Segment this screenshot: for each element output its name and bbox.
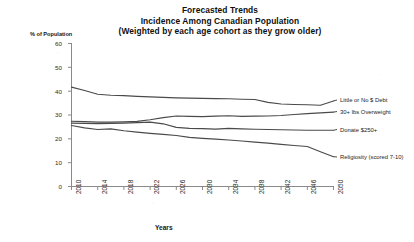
legend-leader-line	[334, 130, 338, 131]
y-tick-label: 20	[40, 135, 62, 142]
x-tick-label: 2034	[232, 179, 239, 193]
forecasted-trends-chart: Forecasted Trends Incidence Among Canadi…	[0, 0, 414, 242]
legend-leader-lines	[334, 100, 338, 157]
x-tick-label: 2042	[284, 179, 291, 193]
x-tick-label: 2030	[206, 179, 213, 193]
x-tick-label: 2014	[101, 179, 108, 193]
series-lines	[72, 87, 334, 157]
x-tick-label: 2046	[310, 179, 317, 193]
x-tick-label: 2018	[127, 179, 134, 193]
y-tick-label: 0	[40, 183, 62, 190]
legend-item-label: 30+ lbs Overweight	[340, 109, 391, 115]
legend-leader-line	[334, 112, 338, 113]
legend-item-label: Little or No $ Debt	[340, 97, 387, 103]
y-tick-label: 40	[40, 88, 62, 95]
y-tick-label: 30	[40, 111, 62, 118]
series-line	[72, 112, 334, 122]
y-axis-ticks	[68, 44, 72, 187]
x-tick-label: 2038	[258, 179, 265, 193]
x-axis-ticks	[72, 187, 334, 191]
y-tick-label: 60	[40, 40, 62, 47]
x-tick-label: 2022	[153, 179, 160, 193]
legend-item-label: Donate $250+	[340, 127, 377, 133]
x-tick-label: 2026	[179, 179, 186, 193]
x-tick-label: 2050	[337, 179, 344, 193]
y-tick-label: 50	[40, 64, 62, 71]
plot-area	[0, 0, 414, 242]
legend-leader-line	[334, 100, 338, 101]
x-tick-label: 2010	[75, 179, 82, 193]
legend-item-label: Religiosity (scored 7-10)	[340, 154, 404, 160]
series-line	[72, 87, 334, 105]
y-tick-label: 10	[40, 159, 62, 166]
